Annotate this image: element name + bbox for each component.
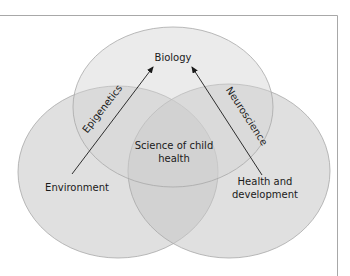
label-biology: Biology xyxy=(155,52,192,63)
label-environment: Environment xyxy=(45,182,109,193)
label-center-line2: health xyxy=(158,153,190,164)
label-health-line1: Health and xyxy=(238,176,293,187)
label-center-line1: Science of child xyxy=(135,140,214,151)
venn-diagram: Biology Environment Health and developme… xyxy=(0,0,350,276)
label-health-line2: development xyxy=(232,189,298,200)
